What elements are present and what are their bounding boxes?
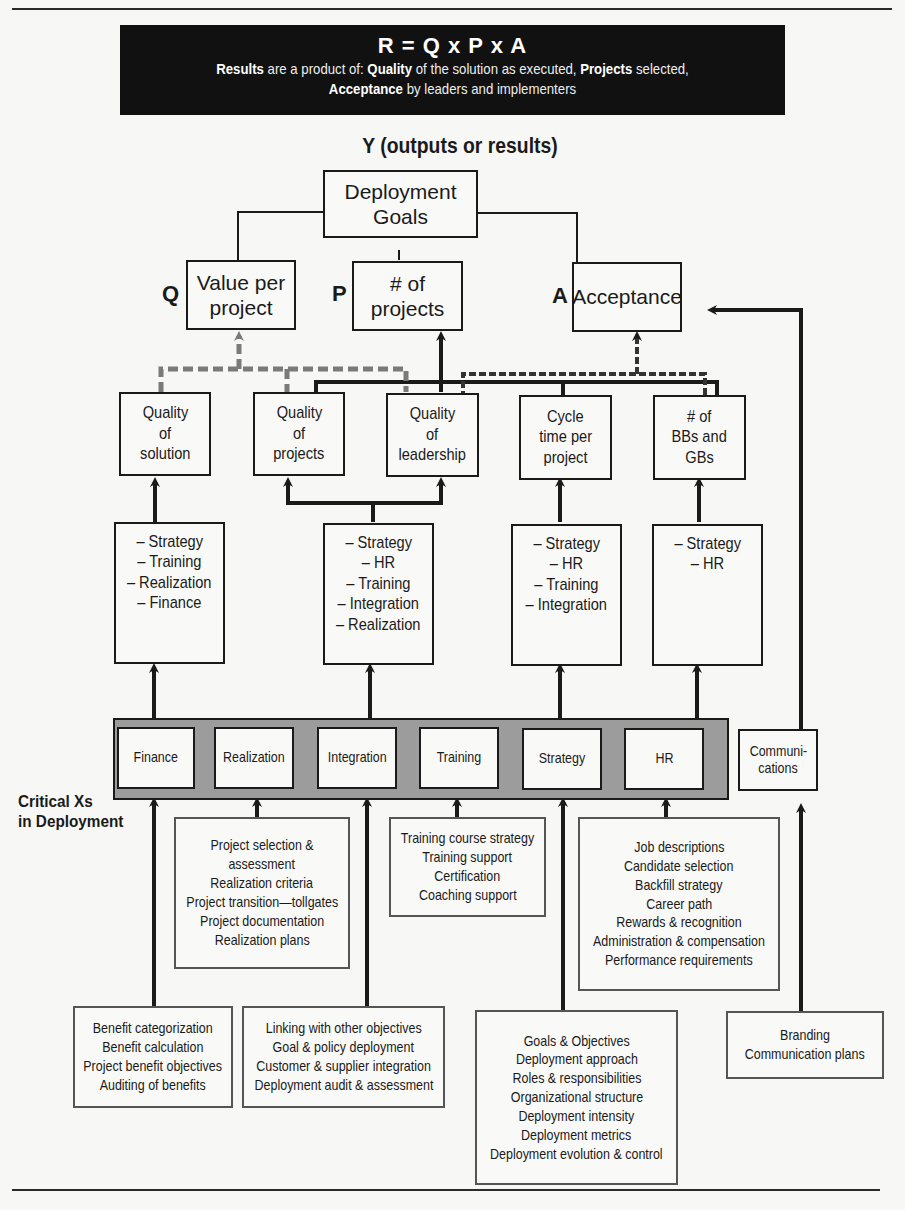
p-letter: P [332, 281, 347, 307]
x-realization: Realization [214, 727, 294, 789]
contributor-item: – Strategy [136, 532, 203, 552]
detail-item: Project transition—tollgates [186, 893, 338, 912]
contributors-bbs-gbs: – Strategy – HR [652, 524, 763, 666]
detail-item: Coaching support [419, 886, 517, 905]
x-label: Communi- [749, 743, 807, 760]
detail-item: Project documentation [200, 912, 324, 931]
detail-item: Realization plans [215, 931, 310, 950]
detail-item: Organizational structure [510, 1088, 642, 1107]
x-label: Realization [223, 749, 285, 766]
contributor-item: – Integration [338, 594, 419, 614]
driver-number-of-bbs-and-gbs: # of BBs and GBs [653, 395, 746, 480]
detail-item: Administration & compensation [593, 932, 765, 951]
box-line: solution [140, 444, 190, 464]
contributor-item: – Training [534, 575, 598, 595]
detail-item: Training support [423, 848, 513, 867]
x-label: Training [437, 749, 482, 766]
contributor-item: – HR [550, 554, 583, 574]
detail-item: Backfill strategy [635, 876, 722, 895]
contributor-item: – HR [691, 554, 724, 574]
detail-item: Candidate selection [624, 857, 734, 876]
contributor-item: – HR [362, 553, 395, 573]
x-finance: Finance [117, 727, 195, 789]
detail-item: Communication plans [745, 1045, 865, 1064]
detail-item: Realization criteria [211, 874, 314, 893]
detail-item: Training course strategy [401, 829, 534, 848]
details-strategy: Goals & Objectives Deployment approach R… [475, 1010, 678, 1185]
contributors-quality-of-solution: – Strategy – Training – Realization – Fi… [114, 522, 225, 664]
detail-item: Deployment metrics [521, 1126, 631, 1145]
details-finance: Benefit categorization Benefit calculati… [73, 1006, 233, 1108]
driver-cycle-time-per-project: Cycle time per project [519, 395, 612, 480]
detail-item: assessment [229, 855, 296, 874]
details-realization: Project selection & assessment Realizati… [174, 817, 350, 969]
detail-item: Benefit calculation [102, 1038, 203, 1057]
box-line: of [293, 424, 305, 444]
detail-item: Performance requirements [605, 951, 753, 970]
box-line: Quality [410, 404, 456, 424]
x-label: Integration [328, 749, 387, 766]
goal-line: Goals [373, 204, 428, 229]
x-hr: HR [624, 728, 704, 790]
detail-item: Goal & policy deployment [273, 1038, 414, 1057]
detail-item: Auditing of benefits [100, 1076, 206, 1095]
detail-item: Branding [780, 1026, 830, 1045]
detail-item: Deployment intensity [519, 1107, 635, 1126]
contributor-item: – Finance [137, 593, 201, 613]
details-communications: Branding Communication plans [726, 1011, 884, 1079]
box-line: # of [390, 271, 425, 296]
label-line: in Deployment [18, 812, 123, 832]
detail-item: Roles & responsibilities [512, 1069, 641, 1088]
box-line: Quality [276, 403, 322, 423]
detail-item: Rewards & recognition [616, 913, 741, 932]
critical-xs-label: Critical Xs in Deployment [18, 792, 123, 832]
x-label: cations [758, 760, 798, 777]
x-communications: Communi- cations [738, 729, 818, 791]
contributors-quality-projects-leadership: – Strategy – HR – Training – Integration… [323, 523, 434, 665]
x-label: HR [655, 750, 673, 767]
contributors-cycle-time: – Strategy – HR – Training – Integration [511, 524, 622, 666]
contributor-item: – Realization [127, 573, 212, 593]
contributor-item: – Strategy [345, 533, 412, 553]
acceptance-box: Acceptance [572, 262, 682, 332]
box-line: project [544, 448, 588, 468]
x-label: Strategy [539, 750, 585, 767]
detail-item: Project benefit objectives [84, 1057, 223, 1076]
deployment-goals-box: Deployment Goals [323, 170, 478, 238]
x-training: Training [419, 727, 499, 789]
box-line: project [209, 295, 272, 320]
detail-item: Benefit categorization [93, 1019, 213, 1038]
detail-item: Linking with other objectives [266, 1019, 422, 1038]
box-line: projects [273, 444, 324, 464]
contributor-item: – Training [137, 552, 201, 572]
detail-item: Career path [646, 895, 712, 914]
box-line: GBs [685, 448, 713, 468]
a-letter: A [552, 283, 568, 309]
q-letter: Q [162, 281, 179, 307]
number-of-projects-box: # of projects [352, 261, 463, 331]
details-integration: Linking with other objectives Goal & pol… [242, 1006, 445, 1108]
goal-line: Deployment [344, 179, 456, 204]
box-line: leadership [399, 445, 466, 465]
box-line: Acceptance [572, 284, 682, 309]
box-line: time per [539, 427, 592, 447]
detail-item: Deployment audit & assessment [254, 1076, 433, 1095]
label-line: Critical Xs [18, 792, 123, 812]
value-per-project-box: Value per project [186, 260, 296, 330]
contributor-item: – Strategy [533, 534, 600, 554]
detail-item: Customer & supplier integration [256, 1057, 431, 1076]
x-integration: Integration [317, 727, 397, 789]
box-line: of [426, 425, 438, 445]
contributor-item: – Training [346, 574, 410, 594]
x-strategy: Strategy [522, 728, 602, 790]
detail-item: Certification [435, 867, 501, 886]
contributor-item: – Realization [336, 615, 421, 635]
details-training: Training course strategy Training suppor… [389, 817, 546, 917]
box-line: projects [371, 296, 445, 321]
contributor-item: – Integration [526, 595, 607, 615]
details-hr: Job descriptions Candidate selection Bac… [578, 817, 780, 991]
driver-quality-of-projects: Quality of projects [253, 392, 345, 476]
box-line: of [159, 424, 171, 444]
driver-quality-of-leadership: Quality of leadership [386, 393, 479, 477]
detail-item: Goals & Objectives [523, 1032, 629, 1051]
